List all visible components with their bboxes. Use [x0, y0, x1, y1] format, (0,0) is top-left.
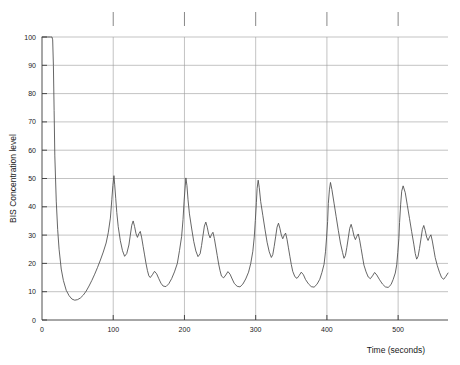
- x-tick-label-0: 0: [40, 326, 44, 333]
- chart-canvas: 0102030405060708090100 0100200300400500 …: [0, 0, 460, 365]
- y-tick-label-50: 50: [28, 175, 36, 182]
- y-axis-tick-marks: [42, 37, 47, 320]
- y-tick-label-20: 20: [28, 260, 36, 267]
- y-tick-label-90: 90: [28, 62, 36, 69]
- y-axis-title: BIS Concentration level: [8, 134, 18, 223]
- y-axis-tick-labels: 0102030405060708090100: [24, 34, 36, 324]
- x-tick-label-200: 200: [179, 326, 191, 333]
- y-tick-label-10: 10: [28, 288, 36, 295]
- y-tick-label-80: 80: [28, 90, 36, 97]
- y-tick-label-30: 30: [28, 232, 36, 239]
- y-tick-label-100: 100: [24, 34, 36, 41]
- y-tick-label-40: 40: [28, 203, 36, 210]
- top-tick-marks: [113, 12, 398, 26]
- x-tick-label-300: 300: [250, 326, 262, 333]
- x-axis-tick-labels: 0100200300400500: [40, 326, 404, 333]
- y-tick-label-60: 60: [28, 147, 36, 154]
- y-tick-label-0: 0: [32, 317, 36, 324]
- x-axis-title: Time (seconds): [367, 345, 425, 355]
- x-tick-label-500: 500: [392, 326, 404, 333]
- x-tick-label-400: 400: [321, 326, 333, 333]
- x-axis-tick-marks: [113, 315, 398, 320]
- y-tick-label-70: 70: [28, 118, 36, 125]
- x-tick-label-100: 100: [107, 326, 119, 333]
- bis-concentration-series-line: [42, 37, 448, 300]
